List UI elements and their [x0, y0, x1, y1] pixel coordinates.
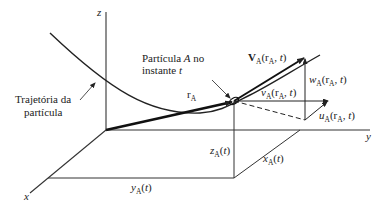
- z-axis-label: z: [96, 6, 102, 18]
- v-component-label: vA(rA, t): [261, 86, 297, 101]
- position-vector: [106, 102, 232, 130]
- x-axis: [30, 130, 106, 193]
- x-coord-label: xA(t): [262, 152, 284, 167]
- trajectory-leader: [80, 83, 95, 100]
- trajectory-label-1: Trajetória da: [15, 93, 71, 105]
- u-component-label: uA(rA, t): [319, 109, 355, 124]
- z-coord-label: zA(t): [209, 144, 230, 159]
- velocity-label: VA(rA, t): [248, 51, 287, 66]
- x-axis-label: x: [23, 190, 29, 202]
- position-vector-label: rA: [187, 88, 197, 103]
- velocity-diagram: z y x Trajetória da partícula Partícula …: [0, 0, 389, 212]
- trajectory-label-2: partícula: [24, 106, 63, 118]
- dashed-projection: [234, 101, 305, 120]
- particle-label-1: Partícula A no: [142, 52, 205, 64]
- y-coord-label: yA(t): [130, 181, 152, 196]
- y-axis-label: y: [365, 130, 371, 142]
- particle-label-2: instante t: [142, 64, 183, 76]
- w-component-label: wA(rA, t): [309, 73, 347, 88]
- particle-leader: [212, 80, 230, 98]
